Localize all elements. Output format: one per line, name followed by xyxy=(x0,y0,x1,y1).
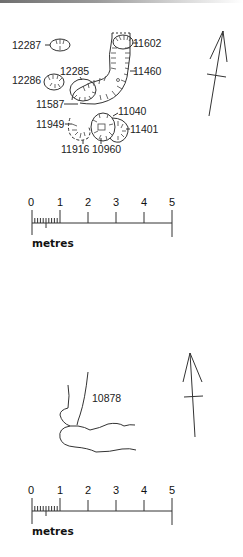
feature-12287: 12287 xyxy=(12,39,70,51)
feature-11602: 11602 xyxy=(113,35,162,49)
scale-tick-1: 1 xyxy=(57,484,63,496)
plan-2: 10878 0 1 2 3 4 5 metres xyxy=(28,353,203,537)
feature-11949: 11949 xyxy=(36,118,90,140)
label-11949: 11949 xyxy=(36,118,65,130)
scale-tick-3: 3 xyxy=(113,484,119,496)
north-arrow-icon xyxy=(183,353,203,437)
plan-1: 12287 11602 11460 12286 xyxy=(12,31,227,249)
scale-tick-3: 3 xyxy=(113,196,119,208)
scale-unit: metres xyxy=(32,525,74,537)
label-11401: 11401 xyxy=(130,123,159,135)
label-11916: 11916 xyxy=(61,143,90,155)
label-12287: 12287 xyxy=(12,39,41,51)
scale-tick-1: 1 xyxy=(57,196,63,208)
label-10878: 10878 xyxy=(92,392,121,404)
scale-tick-0: 0 xyxy=(28,196,34,208)
scale-tick-5: 5 xyxy=(169,196,175,208)
scale-tick-0: 0 xyxy=(28,484,34,496)
label-11602: 11602 xyxy=(133,37,162,49)
scale-unit: metres xyxy=(32,237,74,249)
scale-bar: 0 1 2 3 4 5 metres xyxy=(28,484,175,537)
label-11040: 11040 xyxy=(118,105,147,117)
north-arrow-icon xyxy=(207,31,227,116)
label-11460: 11460 xyxy=(133,65,162,77)
feature-12286: 12286 xyxy=(12,74,64,90)
scale-tick-4: 4 xyxy=(141,484,147,496)
scale-bar: 0 1 2 3 4 5 metres xyxy=(28,196,175,249)
feature-11401: 11401 xyxy=(110,118,159,142)
scale-tick-4: 4 xyxy=(141,196,147,208)
label-12286: 12286 xyxy=(12,74,41,86)
feature-10878: 10878 xyxy=(60,372,136,452)
label-10960: 10960 xyxy=(92,143,121,155)
site-plan-figure: 12287 11602 11460 12286 xyxy=(0,0,243,557)
label-12285: 12285 xyxy=(60,65,89,77)
label-11587: 11587 xyxy=(36,98,65,110)
scale-tick-5: 5 xyxy=(169,484,175,496)
scale-tick-2: 2 xyxy=(85,196,91,208)
scale-tick-2: 2 xyxy=(85,484,91,496)
